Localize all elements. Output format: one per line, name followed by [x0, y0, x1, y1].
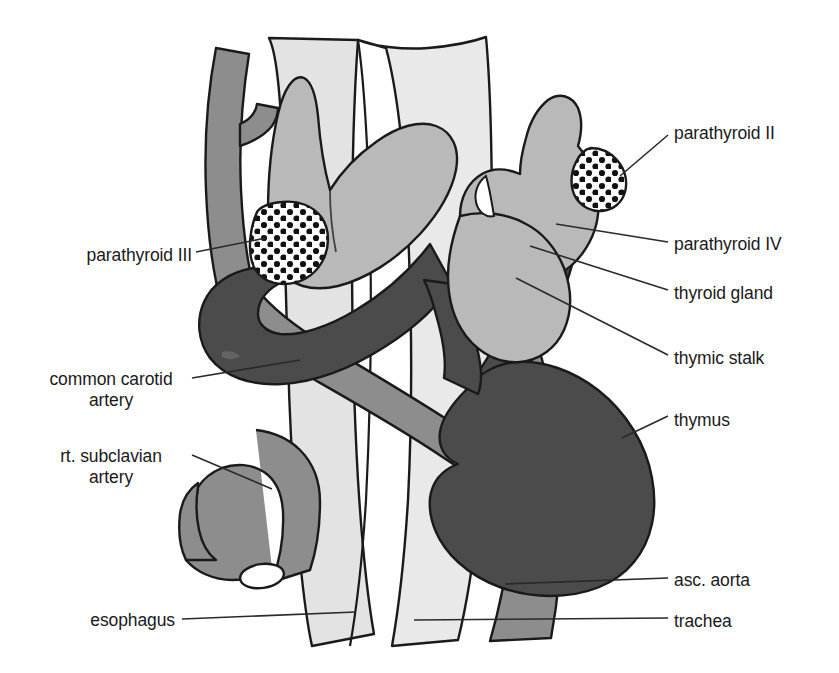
label-parathyroid-iii: parathyroid III	[87, 245, 193, 266]
label-common-carotid-artery: common carotid artery	[36, 369, 186, 412]
label-asc-aorta: asc. aorta	[674, 570, 750, 591]
leader-parathyroid-ii	[620, 135, 668, 176]
label-rt-subclavian-artery: rt. subclavian artery	[36, 446, 186, 489]
label-parathyroid-ii: parathyroid II	[674, 123, 775, 144]
label-thyroid-gland: thyroid gland	[674, 283, 773, 304]
rt-subclavian-artery-shape	[179, 430, 320, 591]
figure-canvas: parathyroid II parathyroid IV thyroid gl…	[0, 0, 839, 673]
label-parathyroid-iv: parathyroid IV	[674, 234, 782, 255]
label-thymic-stalk: thymic stalk	[674, 348, 764, 369]
parathyroid-iii-shape	[250, 202, 328, 284]
label-esophagus: esophagus	[90, 610, 175, 631]
parathyroid-ii-shape	[572, 148, 627, 211]
label-trachea: trachea	[674, 611, 732, 632]
label-thymus: thymus	[674, 410, 730, 431]
